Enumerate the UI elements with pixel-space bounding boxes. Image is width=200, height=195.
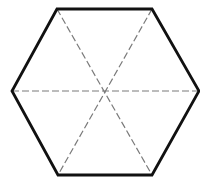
hexagon-diagram	[0, 0, 200, 195]
hexagon-figure	[0, 0, 200, 195]
diagonals-group	[12, 9, 199, 175]
